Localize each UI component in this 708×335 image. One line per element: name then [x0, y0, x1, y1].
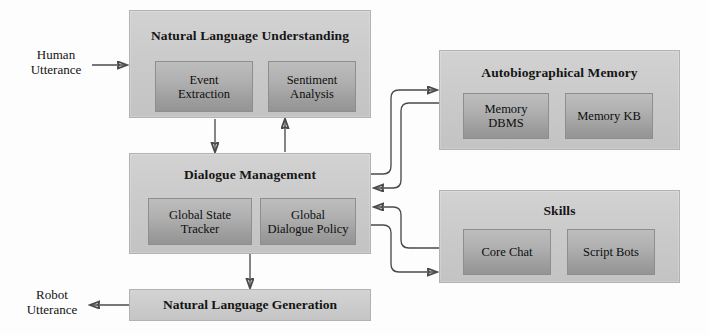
global-state-tracker-line2: Tracker	[169, 222, 231, 236]
robot-utterance-label: Robot Utterance	[14, 288, 90, 318]
sub-sentiment-analysis[interactable]: Sentiment Analysis	[268, 61, 356, 112]
module-natural-language-understanding[interactable]: Natural Language Understanding Event Ext…	[129, 10, 371, 118]
sub-label-memory-dbms: Memory DBMS	[482, 102, 529, 130]
connector-dm-to-skills	[371, 225, 437, 272]
script-bots-line1: Script Bots	[583, 245, 639, 259]
module-title-nlg: Natural Language Generation	[163, 297, 337, 313]
memory-dbms-line1: Memory	[484, 102, 527, 116]
connector-skills-to-dm	[374, 207, 440, 248]
human-utterance-line1: Human	[18, 48, 94, 63]
sub-label-script-bots: Script Bots	[581, 245, 641, 259]
sub-label-core-chat: Core Chat	[479, 245, 534, 259]
module-title-skills: Skills	[440, 203, 679, 219]
module-title-dialogue-management: Dialogue Management	[130, 167, 370, 183]
sub-label-sentiment-analysis: Sentiment Analysis	[285, 73, 340, 101]
global-dialogue-policy-line2: Dialogue Policy	[268, 222, 349, 236]
human-utterance-label: Human Utterance	[18, 48, 94, 78]
connector-memory-to-dm	[374, 103, 440, 188]
sub-global-dialogue-policy[interactable]: Global Dialogue Policy	[260, 198, 356, 245]
module-autobiographical-memory[interactable]: Autobiographical Memory Memory DBMS Memo…	[439, 50, 680, 150]
sub-label-event-extraction: Event Extraction	[176, 73, 232, 101]
module-skills[interactable]: Skills Core Chat Script Bots	[439, 190, 680, 283]
human-utterance-line2: Utterance	[18, 63, 94, 78]
global-dialogue-policy-line1: Global	[268, 208, 349, 222]
sub-label-global-dialogue-policy: Global Dialogue Policy	[266, 208, 351, 236]
global-state-tracker-line1: Global State	[169, 208, 231, 222]
event-extraction-line1: Event	[178, 73, 230, 87]
memory-dbms-line2: DBMS	[484, 116, 527, 130]
module-title-autobiographical-memory: Autobiographical Memory	[440, 65, 679, 81]
module-dialogue-management[interactable]: Dialogue Management Global State Tracker…	[129, 153, 371, 254]
connector-dm-to-memory	[371, 90, 437, 174]
robot-utterance-line1: Robot	[14, 288, 90, 303]
module-natural-language-generation[interactable]: Natural Language Generation	[129, 289, 371, 321]
sub-label-global-state-tracker: Global State Tracker	[167, 208, 233, 236]
sub-event-extraction[interactable]: Event Extraction	[155, 61, 253, 112]
robot-utterance-line2: Utterance	[14, 303, 90, 318]
architecture-diagram: Human Utterance Robot Utterance Natural …	[0, 0, 708, 335]
sub-memory-kb[interactable]: Memory KB	[565, 93, 653, 139]
core-chat-line1: Core Chat	[481, 245, 532, 259]
sentiment-analysis-line2: Analysis	[287, 87, 338, 101]
memory-kb-line1: Memory KB	[577, 109, 641, 123]
sub-script-bots[interactable]: Script Bots	[567, 229, 655, 275]
sub-memory-dbms[interactable]: Memory DBMS	[463, 93, 549, 139]
sub-global-state-tracker[interactable]: Global State Tracker	[148, 198, 252, 245]
sub-core-chat[interactable]: Core Chat	[463, 229, 551, 275]
sentiment-analysis-line1: Sentiment	[287, 73, 338, 87]
event-extraction-line2: Extraction	[178, 87, 230, 101]
module-title-nlu: Natural Language Understanding	[130, 28, 370, 44]
sub-label-memory-kb: Memory KB	[575, 109, 643, 123]
